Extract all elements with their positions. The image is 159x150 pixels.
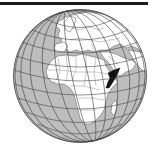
globe-map xyxy=(0,0,159,150)
